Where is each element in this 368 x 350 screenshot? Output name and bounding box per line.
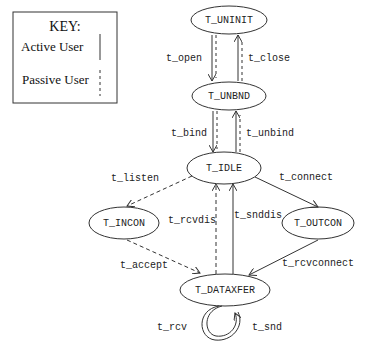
- state-unbnd-label: T_UNBND: [208, 91, 250, 102]
- edge-self-loop: t_rcv t_snd: [157, 306, 282, 340]
- state-unbnd: T_UNBND: [192, 82, 266, 110]
- edge-close-label: t_close: [248, 53, 290, 64]
- edge-snddis-label: t_snddis: [234, 210, 282, 221]
- edge-bind-label: t_bind: [171, 128, 207, 139]
- edge-connect-label: t_connect: [279, 172, 333, 183]
- state-idle: T_IDLE: [187, 152, 261, 184]
- edge-snddis: t_snddis: [233, 184, 282, 274]
- edge-unbind-label: t_unbind: [246, 128, 294, 139]
- edge-accept: t_accept: [120, 240, 200, 273]
- state-diagram: KEY: Active User Passive User T_UNINIT T…: [0, 0, 368, 350]
- edge-close: t_close: [238, 35, 290, 81]
- state-incon-label: T_INCON: [103, 218, 145, 229]
- state-dataxfer: T_DATAXFER: [180, 274, 270, 306]
- edge-listen-label: t_listen: [111, 173, 159, 184]
- edge-listen: t_listen: [111, 173, 192, 206]
- edge-unbind: t_unbind: [236, 111, 294, 152]
- edge-accept-label: t_accept: [120, 260, 168, 271]
- edge-rcvconnect-label: t_rcvconnect: [282, 258, 354, 269]
- edge-open: t_open: [166, 35, 216, 81]
- state-incon: T_INCON: [89, 207, 159, 239]
- state-outcon: T_OUTCON: [282, 207, 354, 239]
- state-idle-label: T_IDLE: [206, 163, 242, 174]
- edge-rcvconnect: t_rcvconnect: [249, 240, 354, 275]
- edge-rcvdis: t_rcvdis: [168, 184, 216, 274]
- edge-open-label: t_open: [166, 53, 202, 64]
- state-outcon-label: T_OUTCON: [294, 218, 342, 229]
- edge-bind: t_bind: [171, 111, 217, 152]
- edge-snd-label: t_snd: [252, 322, 282, 333]
- edge-rcv-label: t_rcv: [157, 322, 187, 333]
- state-dataxfer-label: T_DATAXFER: [195, 285, 255, 296]
- key-passive-label: Passive User: [22, 72, 89, 87]
- edge-rcvdis-label: t_rcvdis: [168, 215, 216, 226]
- state-uninit-label: T_UNINIT: [205, 15, 253, 26]
- key-title: KEY:: [49, 19, 80, 34]
- state-uninit: T_UNINIT: [191, 6, 267, 34]
- key-legend: KEY: Active User Passive User: [13, 12, 117, 103]
- edge-connect: t_connect: [255, 172, 333, 207]
- key-active-label: Active User: [21, 39, 84, 54]
